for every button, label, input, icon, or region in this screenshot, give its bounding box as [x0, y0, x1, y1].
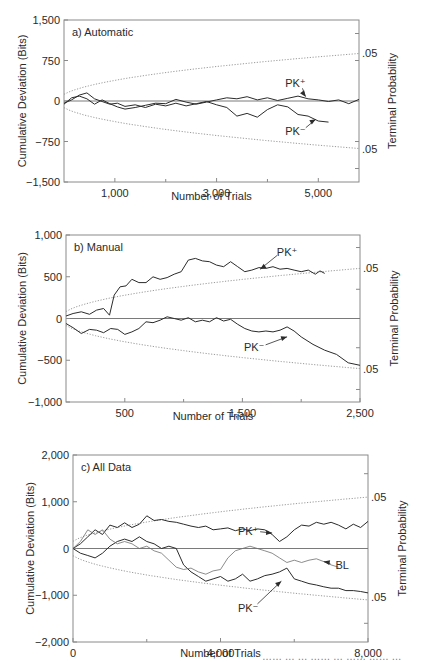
- figure: 1,5007500−750−1,5001,0003,0005,000.05.05…: [0, 0, 421, 662]
- series-annotation: PK⁻: [285, 125, 306, 137]
- terminal-probability-label: .05: [371, 491, 386, 503]
- y-tick-label: 1,000: [34, 229, 62, 241]
- panel-title: c) All Data: [81, 461, 132, 473]
- terminal-probability-label: .05: [371, 591, 386, 603]
- lower-significance-envelope: [64, 108, 359, 149]
- y-tick-label: 500: [44, 271, 62, 283]
- y-tick-label: 1,500: [32, 14, 60, 26]
- x-tick-label: 1,000: [101, 187, 129, 199]
- lower-significance-envelope: [73, 556, 368, 600]
- y-tick-label: 0: [54, 95, 60, 107]
- series-annotation: BL: [335, 559, 348, 571]
- panel-a-automatic: 1,5007500−750−1,5001,0003,0005,000.05.05…: [16, 14, 398, 202]
- y-tick-label: 1,000: [41, 496, 69, 508]
- y-tick-label: −1,000: [28, 396, 62, 408]
- y-tick-label: 0: [56, 313, 62, 325]
- x-tick-label: 2,500: [346, 407, 374, 419]
- arrowhead-icon: [324, 560, 330, 565]
- arrowhead-icon: [300, 90, 306, 96]
- x-axis-label: Number of Trials: [180, 647, 261, 659]
- y-tick-label: 750: [42, 55, 60, 67]
- y-axis-label: Cumulative Deviation (Bits): [24, 482, 36, 615]
- y-tick-label: −1,500: [26, 176, 60, 188]
- arrowhead-icon: [281, 336, 287, 341]
- series-annotation: PK⁺: [277, 246, 298, 258]
- upper-significance-envelope: [66, 268, 360, 311]
- right-axis-label: Terminal Probability: [386, 53, 398, 149]
- series-bl: [73, 530, 339, 574]
- terminal-probability-label: .05: [362, 47, 377, 59]
- right-axis-label: Terminal Probability: [396, 500, 408, 596]
- series-pkminus: [66, 317, 360, 366]
- terminal-probability-label: .05: [362, 143, 377, 155]
- series-annotation: PK⁻: [238, 602, 259, 614]
- x-tick-label: 500: [116, 407, 134, 419]
- lower-significance-envelope: [66, 326, 360, 369]
- upper-significance-envelope: [64, 54, 359, 95]
- terminal-probability-label: .05: [363, 262, 378, 274]
- panel-c-all-data: 2,0001,0000−1,000−2,00004,0008,000.05.05…: [24, 449, 408, 659]
- panel-title: a) Automatic: [72, 26, 134, 38]
- caption-fragment: …… … … …… … …… …… …: [262, 655, 412, 662]
- panel-title: b) Manual: [74, 241, 123, 253]
- x-tick-label: 5,000: [305, 187, 333, 199]
- series-pkplus: [64, 96, 359, 109]
- x-tick-label: 0: [70, 647, 76, 659]
- y-axis-label: Cumulative Deviation (Bits): [16, 252, 28, 385]
- upper-significance-envelope: [73, 497, 368, 541]
- series-pkminus: [73, 537, 368, 593]
- y-tick-label: 0: [63, 543, 69, 555]
- panel-b-manual: 1,0005000−500−1,0005001,5002,500.05.05PK…: [16, 229, 400, 422]
- x-axis-label: Number of Trials: [171, 190, 252, 202]
- series-annotation: PK⁺: [285, 77, 306, 89]
- series-annotation: PK⁻: [244, 341, 265, 353]
- y-tick-label: −500: [37, 354, 62, 366]
- series-annotation: PK⁺: [238, 525, 259, 537]
- chart-canvas: 1,5007500−750−1,5001,0003,0005,000.05.05…: [0, 0, 421, 662]
- y-axis-label: Cumulative Deviation (Bits): [16, 35, 28, 168]
- terminal-probability-label: .05: [363, 363, 378, 375]
- y-tick-label: −750: [35, 136, 60, 148]
- right-axis-label: Terminal Probability: [388, 270, 400, 366]
- y-tick-label: −1,000: [35, 589, 69, 601]
- y-tick-label: −2,000: [35, 636, 69, 648]
- y-tick-label: 2,000: [41, 449, 69, 461]
- series-pkminus: [64, 93, 329, 122]
- x-axis-label: Number of Trials: [173, 410, 254, 422]
- series-pkplus: [66, 258, 325, 316]
